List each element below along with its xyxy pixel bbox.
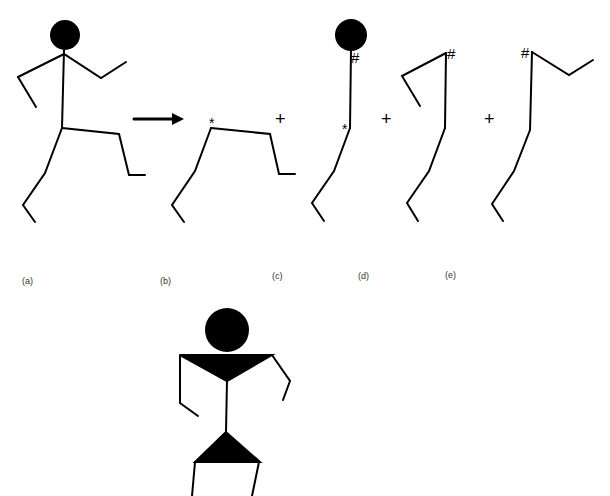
hash-marker-e: #	[521, 45, 529, 60]
figure-canvas	[0, 0, 610, 496]
panel-label-d: (d)	[358, 271, 369, 281]
star-marker-b: *	[209, 116, 214, 130]
plus-operator-1: +	[275, 110, 286, 128]
plus-operator-3: +	[484, 110, 495, 128]
plus-operator-2: +	[381, 110, 392, 128]
hash-marker-c: #	[351, 50, 359, 65]
figure-e	[492, 52, 593, 221]
figure-bottom	[180, 308, 290, 496]
panel-label-c: (c)	[272, 271, 283, 281]
panel-label-e: (e)	[445, 270, 456, 280]
panel-label-a: (a)	[22, 276, 33, 286]
arrow-icon	[134, 113, 184, 125]
figure-a	[18, 20, 145, 222]
figure-b	[172, 128, 295, 222]
star-marker-c: *	[342, 122, 347, 136]
hash-marker-d: #	[447, 46, 455, 61]
figure-d	[402, 53, 446, 221]
panel-label-b: (b)	[160, 276, 171, 286]
